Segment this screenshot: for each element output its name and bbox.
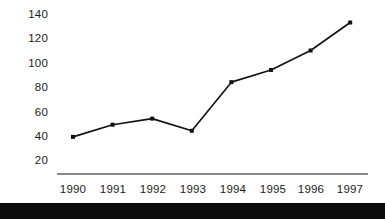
x-axis-line bbox=[57, 173, 368, 175]
data-point-marker bbox=[111, 123, 115, 127]
data-point-marker bbox=[229, 80, 233, 84]
data-point-marker bbox=[150, 117, 154, 121]
data-point-marker bbox=[309, 49, 313, 53]
x-axis-tick-label: 1993 bbox=[173, 183, 213, 195]
x-axis-tick-label: 1991 bbox=[93, 183, 133, 195]
line-chart: 140 120 100 80 60 40 20 1990 1991 1992 1… bbox=[0, 0, 385, 219]
x-axis-tick-label: 1994 bbox=[213, 183, 253, 195]
data-series-line bbox=[0, 0, 385, 200]
data-point-marker bbox=[190, 129, 194, 133]
x-axis-tick-label: 1990 bbox=[53, 183, 93, 195]
x-axis-tick-label: 1995 bbox=[253, 183, 293, 195]
data-point-marker bbox=[71, 135, 75, 139]
footer-bar bbox=[0, 203, 385, 219]
data-point-marker bbox=[348, 21, 352, 25]
x-axis-tick-label: 1997 bbox=[330, 183, 370, 195]
x-axis-tick-label: 1996 bbox=[291, 183, 331, 195]
x-axis-tick-label: 1992 bbox=[133, 183, 173, 195]
plot-area: 140 120 100 80 60 40 20 1990 1991 1992 1… bbox=[0, 0, 385, 200]
data-point-marker bbox=[269, 68, 273, 72]
